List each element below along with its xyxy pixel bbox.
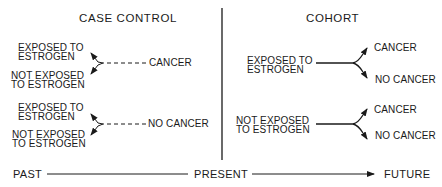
- exposure-label-line2: ESTROGEN: [247, 65, 304, 75]
- case-control-title: CASE CONTROL: [79, 12, 177, 24]
- outcome-label: NO CANCER: [375, 75, 436, 85]
- case-control-no-cancer-arrows: [91, 114, 146, 135]
- outcome-label: CANCER: [374, 43, 417, 53]
- cohort-not-exposed-arrows: [316, 109, 367, 139]
- case-control-cancer-arrows: [91, 53, 146, 74]
- diagram-lines: [0, 0, 442, 187]
- outcome-label: NO CANCER: [375, 131, 436, 141]
- exposure-label-line2: TO ESTROGEN: [11, 80, 85, 90]
- timeline-future-label: FUTURE: [384, 168, 430, 180]
- timeline-present-label: PRESENT: [194, 168, 248, 180]
- study-design-diagram: CASE CONTROL COHORT EXPOSED TO ESTROGEN …: [0, 0, 442, 187]
- outcome-label: NO CANCER: [148, 119, 209, 129]
- outcome-label: CANCER: [374, 105, 417, 115]
- exposure-label-line2: ESTROGEN: [18, 52, 75, 62]
- outcome-label: CANCER: [149, 58, 192, 68]
- cohort-exposed-arrows: [316, 48, 367, 78]
- timeline-past-label: PAST: [13, 168, 42, 180]
- exposure-label-line2: TO ESTROGEN: [236, 125, 310, 135]
- cohort-title: COHORT: [306, 12, 359, 24]
- exposure-label-line2: ESTROGEN: [18, 112, 75, 122]
- exposure-label-line2: TO ESTROGEN: [12, 139, 86, 149]
